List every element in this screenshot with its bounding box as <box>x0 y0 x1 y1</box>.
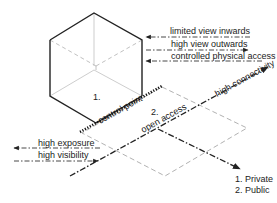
high-visibility-label: high visibility <box>38 150 89 160</box>
cube-outline-top <box>50 13 142 96</box>
cube-hidden-edge <box>50 40 96 66</box>
legend-item-public: 2. Public <box>235 185 270 195</box>
private-zone-number: 1. <box>93 92 101 102</box>
limited-view-inwards-label: limited view inwards <box>170 26 251 36</box>
cube-hidden-edge <box>96 40 142 66</box>
open-access-label: open access <box>139 101 188 134</box>
high-connectivity-label: high connectivity <box>213 58 276 99</box>
legend: 1. Private 2. Public <box>235 174 273 195</box>
cube-inner-edge <box>50 70 94 96</box>
legend-item-private: 1. Private <box>235 174 273 184</box>
diagram-canvas: limited view inwards high view outwards … <box>0 0 277 203</box>
controlled-physical-access-label: controlled physical access <box>171 51 276 61</box>
control-point-label: control point <box>96 93 144 126</box>
high-exposure-label: high exposure <box>38 138 95 148</box>
cube-inner-edge <box>94 70 142 96</box>
public-zone-outline <box>82 87 247 176</box>
open-access-arrow <box>158 129 240 169</box>
high-view-outwards-label: high view outwards <box>171 39 248 49</box>
